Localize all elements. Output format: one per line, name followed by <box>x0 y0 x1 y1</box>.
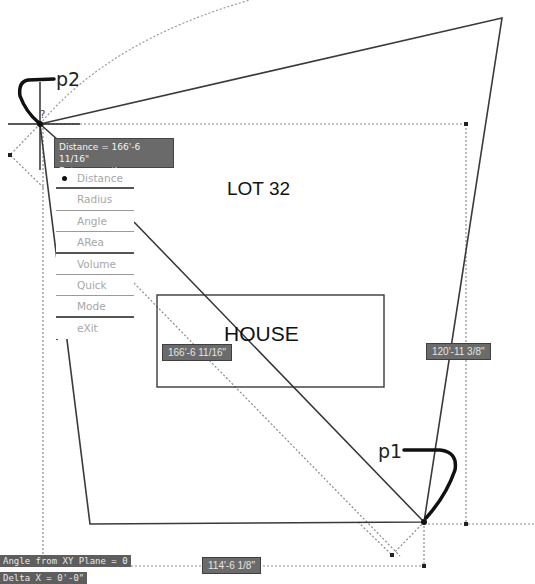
house-label: HOUSE <box>224 322 299 346</box>
lot-label: LOT 32 <box>227 178 290 200</box>
selected-bullet-icon <box>62 176 67 181</box>
menu-item-angle[interactable]: Angle <box>56 211 134 232</box>
menu-item-label: Radius <box>77 193 112 205</box>
command-line-angle: Angle from XY Plane = 0 <box>0 555 131 567</box>
menu-item-distance[interactable]: Distance <box>56 168 134 189</box>
menu-item-quick[interactable]: Quick <box>56 275 134 296</box>
menu-item-area[interactable]: ARea <box>56 232 134 253</box>
menu-item-radius[interactable]: Radius <box>56 189 134 210</box>
menu-item-exit[interactable]: eXit <box>56 318 134 339</box>
menu-item-volume[interactable]: Volume <box>56 254 134 275</box>
menu-item-label: Distance <box>77 172 123 184</box>
p2-label: p2 <box>56 68 80 90</box>
p1-label: p1 <box>378 440 402 462</box>
command-line-delta: Delta X = 0'-0" <box>0 572 87 584</box>
option-menu: Distance Radius Angle ARea Volume Quick … <box>56 168 134 339</box>
menu-item-label: eXit <box>77 322 98 334</box>
menu-item-label: ARea <box>77 236 104 248</box>
menu-item-label: Volume <box>77 258 116 270</box>
p1-point[interactable] <box>421 519 427 525</box>
measure-line <box>134 222 424 522</box>
dimension-vertical: 120'-11 3/8" <box>426 343 491 360</box>
menu-item-label: Quick <box>77 279 107 291</box>
measure-tooltip: Distance = 166'-6 11/16" Enter an option <box>54 138 174 168</box>
menu-item-label: Mode <box>77 300 106 312</box>
dimension-horizontal: 114'-6 1/8" <box>202 557 261 574</box>
p2-callout-arrow <box>20 79 54 122</box>
snap-marker-icon: ? <box>40 109 45 120</box>
dimension-diagonal: 166'-6 11/16" <box>162 344 232 361</box>
menu-item-label: Angle <box>77 215 107 227</box>
menu-item-mode[interactable]: Mode <box>56 296 134 317</box>
measure-arc <box>40 0 250 124</box>
tooltip-distance: Distance = 166'-6 11/16" <box>59 141 169 165</box>
